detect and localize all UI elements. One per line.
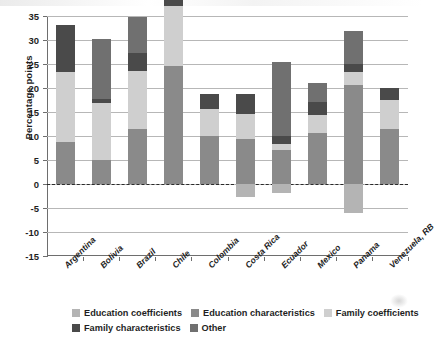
bar-segment — [128, 53, 147, 71]
bar-segment — [344, 184, 363, 213]
bar-segment — [272, 184, 291, 193]
legend-item[interactable]: Education characteristics — [191, 308, 315, 318]
legend-swatch-icon — [191, 309, 199, 317]
bar-colombia — [200, 16, 219, 256]
bar-segment — [380, 88, 399, 100]
bar-segment — [200, 94, 219, 109]
x-tick-mark — [119, 257, 120, 261]
bar-segment — [308, 102, 327, 115]
bar-mexico — [308, 16, 327, 256]
bar-segment — [308, 133, 327, 184]
x-tick-mark — [336, 257, 337, 261]
bar-segment — [56, 72, 75, 142]
bar-segment — [92, 103, 111, 160]
legend-row: Family characteristicsOther — [72, 321, 417, 334]
bar-argentina — [56, 16, 75, 256]
bar-segment — [272, 150, 291, 184]
legend-swatch-icon — [190, 324, 198, 332]
bar-segment — [236, 94, 255, 114]
bar-costa-rica — [236, 16, 255, 256]
x-tick-mark — [228, 257, 229, 261]
bar-segment — [200, 136, 219, 184]
y-tick-mark — [43, 136, 47, 137]
x-tick-mark — [191, 257, 192, 261]
legend-item[interactable]: Family coefficients — [324, 308, 419, 318]
legend-swatch-icon — [324, 309, 332, 317]
legend-swatch-icon — [72, 309, 80, 317]
bar-segment — [236, 114, 255, 139]
legend-label: Education characteristics — [203, 308, 315, 318]
bar-segment — [128, 71, 147, 129]
bar-segment — [272, 62, 291, 136]
bar-segment — [128, 17, 147, 53]
bar-brazil — [128, 16, 147, 256]
y-tick-label: 0 — [5, 179, 39, 190]
y-tick-mark — [43, 88, 47, 89]
bar-segment — [200, 109, 219, 135]
legend-label: Education coefficients — [84, 308, 182, 318]
bar-venezuela-rb — [380, 16, 399, 256]
y-tick-label: -5 — [5, 203, 39, 214]
x-tick-mark — [155, 257, 156, 261]
bar-segment — [308, 83, 327, 103]
y-tick-label: 35 — [5, 11, 39, 22]
bar-segment — [308, 115, 327, 133]
bar-bolivia — [92, 16, 111, 256]
bar-segment — [380, 129, 399, 184]
legend-swatch-icon — [72, 324, 80, 332]
chart-legend: Education coefficientsEducation characte… — [72, 306, 417, 336]
bar-segment — [236, 184, 255, 197]
legend-item[interactable]: Education coefficients — [72, 308, 182, 318]
legend-item[interactable]: Other — [190, 323, 227, 333]
x-tick-mark — [300, 257, 301, 261]
bar-segment — [344, 31, 363, 65]
bar-segment — [272, 144, 291, 150]
bar-segment — [92, 39, 111, 99]
y-tick-mark — [43, 112, 47, 113]
scan-artifact-top — [0, 0, 423, 6]
y-tick-mark — [43, 16, 47, 17]
bar-segment — [272, 136, 291, 145]
y-tick-label: -15 — [5, 251, 39, 262]
x-tick-mark — [408, 257, 409, 261]
bar-segment — [344, 64, 363, 71]
legend-label: Family coefficients — [336, 308, 419, 318]
y-tick-label: 20 — [5, 83, 39, 94]
bar-segment — [56, 25, 75, 73]
bar-panama — [344, 16, 363, 256]
bar-segment — [164, 66, 183, 184]
y-tick-mark — [43, 40, 47, 41]
y-tick-label: 30 — [5, 35, 39, 46]
y-tick-mark — [43, 64, 47, 65]
bar-segment — [128, 129, 147, 184]
x-tick-mark — [83, 257, 84, 261]
y-tick-label: 10 — [5, 131, 39, 142]
legend-label: Family characteristics — [84, 323, 181, 333]
bar-segment — [56, 142, 75, 184]
plot-area: 35302520151050-5-10-15 — [47, 16, 408, 256]
bar-chile — [164, 16, 183, 256]
bar-segment — [164, 0, 183, 6]
x-tick-mark — [264, 257, 265, 261]
bar-segment — [344, 72, 363, 85]
bar-segment — [380, 100, 399, 130]
x-tick-mark — [372, 257, 373, 261]
y-tick-label: 15 — [5, 107, 39, 118]
bar-segment — [236, 139, 255, 184]
legend-item[interactable]: Family characteristics — [72, 323, 181, 333]
bar-segment — [164, 6, 183, 66]
bar-ecuador — [272, 16, 291, 256]
bar-segment — [92, 99, 111, 103]
bar-segment — [344, 85, 363, 184]
y-tick-mark — [43, 256, 47, 257]
y-tick-mark — [43, 208, 47, 209]
legend-row: Education coefficientsEducation characte… — [72, 306, 417, 319]
y-tick-mark — [43, 160, 47, 161]
y-tick-label: 5 — [5, 155, 39, 166]
y-tick-label: -10 — [5, 227, 39, 238]
y-tick-label: 25 — [5, 59, 39, 70]
legend-label: Other — [202, 323, 227, 333]
bar-segment — [92, 160, 111, 184]
y-tick-mark — [43, 232, 47, 233]
